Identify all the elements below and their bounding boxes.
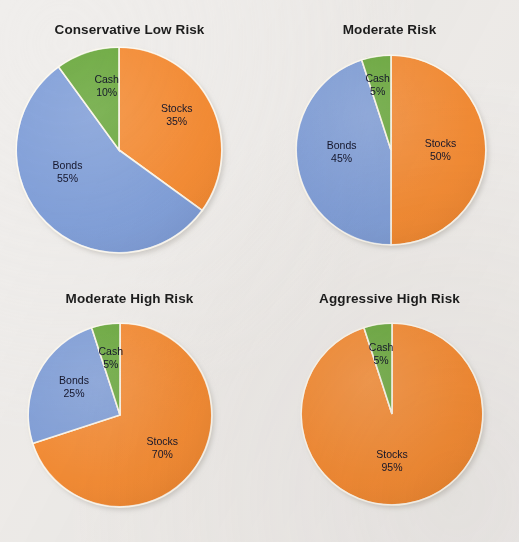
slice-label-percent: 55% <box>57 172 78 184</box>
slice-label-percent: 5% <box>370 85 385 97</box>
slice-label-percent: 35% <box>166 115 187 127</box>
slice-label-name: Stocks <box>425 137 457 149</box>
slice-label-name: Bonds <box>327 139 357 151</box>
slice-label-name: Bonds <box>53 159 83 171</box>
slice-label-bonds: Bonds25% <box>59 374 89 399</box>
slice-label-cash: Cash10% <box>94 73 119 98</box>
pie-chart-moderate-risk[interactable]: Stocks50%Bonds45%Cash5% <box>282 41 500 259</box>
chart-title: Aggressive High Risk <box>260 291 519 306</box>
slice-label-percent: 5% <box>103 358 118 370</box>
slice-label-percent: 70% <box>152 448 173 460</box>
chart-panel-aggressive-high-risk[interactable]: Aggressive High Risk Stocks95%Cash5% <box>260 271 519 542</box>
pie-chart-grid: Conservative Low Risk Stocks35%Bonds55%C… <box>0 0 519 542</box>
chart-title: Moderate High Risk <box>0 291 259 306</box>
slice-label-name: Cash <box>369 341 394 353</box>
pie-chart-conservative-low-risk[interactable]: Stocks35%Bonds55%Cash10% <box>2 33 236 267</box>
slice-label-percent: 95% <box>381 461 402 473</box>
slice-label-percent: 50% <box>430 150 451 162</box>
pie-chart-moderate-high-risk[interactable]: Stocks70%Bonds25%Cash5% <box>14 309 226 521</box>
slice-label-name: Cash <box>365 72 390 84</box>
slice-label-bonds: Bonds55% <box>53 159 83 184</box>
slice-label-bonds: Bonds45% <box>327 139 357 164</box>
slice-label-percent: 25% <box>63 387 84 399</box>
pie-chart-aggressive-high-risk[interactable]: Stocks95%Cash5% <box>287 309 497 519</box>
slice-label-name: Cash <box>99 345 124 357</box>
chart-panel-moderate-risk[interactable]: Moderate Risk Stocks50%Bonds45%Cash5% <box>260 0 519 271</box>
chart-title: Moderate Risk <box>260 22 519 37</box>
slice-label-name: Stocks <box>376 448 408 460</box>
slice-label-name: Stocks <box>147 435 179 447</box>
slice-label-name: Bonds <box>59 374 89 386</box>
slice-label-percent: 5% <box>373 354 388 366</box>
slice-label-name: Stocks <box>161 102 193 114</box>
chart-panel-moderate-high-risk[interactable]: Moderate High Risk Stocks70%Bonds25%Cash… <box>0 271 259 542</box>
slice-label-percent: 45% <box>331 152 352 164</box>
slice-label-percent: 10% <box>96 86 117 98</box>
chart-panel-conservative-low-risk[interactable]: Conservative Low Risk Stocks35%Bonds55%C… <box>0 0 259 271</box>
slice-label-name: Cash <box>94 73 119 85</box>
